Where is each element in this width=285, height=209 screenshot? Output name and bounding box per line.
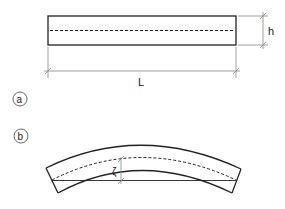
height-dimension <box>238 12 268 49</box>
bent-beam-right-end <box>232 169 241 193</box>
length-dimension <box>44 47 240 78</box>
deflection-label: ζ <box>112 166 117 178</box>
figure-b: b ζ <box>14 129 241 193</box>
length-label: L <box>138 76 144 88</box>
figure-b-label: b <box>18 131 24 142</box>
height-label: h <box>268 25 274 37</box>
beam-diagram: h L a b ζ <box>0 0 285 209</box>
deflection-dimension <box>118 156 124 184</box>
figure-a-label: a <box>17 94 23 105</box>
bent-beam-bottom-edge <box>58 171 232 194</box>
neutral-axis-bent <box>52 158 236 181</box>
figure-a: h L a <box>13 12 274 106</box>
